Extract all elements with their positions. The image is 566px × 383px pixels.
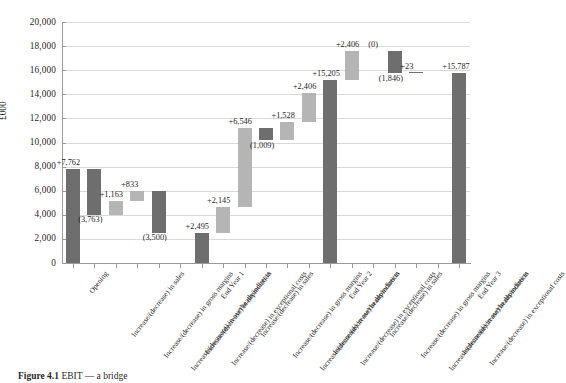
bar-value-label: +15,787 bbox=[442, 63, 470, 71]
y-tick-mark bbox=[62, 263, 66, 264]
x-tick-mark bbox=[287, 263, 288, 268]
x-tick-mark bbox=[266, 263, 267, 268]
waterfall-bar[interactable] bbox=[280, 122, 294, 140]
waterfall-bar[interactable] bbox=[452, 73, 466, 263]
bar-value-label: +1,163 bbox=[100, 191, 123, 199]
waterfall-bar[interactable] bbox=[259, 128, 273, 140]
y-tick-label: 8,000 bbox=[4, 162, 56, 171]
bar-value-label: +7,762 bbox=[57, 159, 80, 167]
waterfall-bar[interactable] bbox=[152, 191, 166, 233]
waterfall-bar[interactable] bbox=[345, 51, 359, 80]
x-tick-mark bbox=[159, 263, 160, 268]
y-tick-label: 10,000 bbox=[4, 138, 56, 147]
y-tick-label: 20,000 bbox=[4, 18, 56, 27]
x-tick-mark bbox=[438, 263, 439, 268]
x-tick-mark bbox=[223, 263, 224, 268]
x-tick-mark bbox=[137, 263, 138, 268]
bar-value-label: +2,406 bbox=[336, 41, 359, 49]
bar-value-label: +2,495 bbox=[186, 223, 209, 231]
y-tick-label: 12,000 bbox=[4, 114, 56, 123]
y-tick-label: 0 bbox=[4, 259, 56, 268]
y-tick-label: 2,000 bbox=[4, 234, 56, 243]
bar-value-label: (3,763) bbox=[78, 216, 102, 224]
x-tick-mark bbox=[245, 263, 246, 268]
plot-area: +7,762(3,763)+1,163+833(3,500)+2,495+2,1… bbox=[62, 22, 470, 263]
x-tick-mark bbox=[330, 263, 331, 268]
x-tick-mark bbox=[459, 263, 460, 268]
x-tick-mark bbox=[352, 263, 353, 268]
caption-text: EBIT — a bridge bbox=[61, 371, 127, 381]
bar-value-label: (1,009) bbox=[250, 142, 274, 150]
bar-value-label: (3,500) bbox=[143, 234, 167, 242]
x-tick-mark bbox=[73, 263, 74, 268]
y-tick-label: 14,000 bbox=[4, 90, 56, 99]
bar-value-label: +15,205 bbox=[312, 70, 340, 78]
x-tick-mark bbox=[116, 263, 117, 268]
x-tick-mark bbox=[416, 263, 417, 268]
x-tick-mark bbox=[309, 263, 310, 268]
waterfall-bar[interactable] bbox=[323, 80, 337, 263]
bar-value-label: (0) bbox=[368, 41, 378, 49]
waterfall-bar[interactable] bbox=[302, 93, 316, 122]
bar-value-label: +23 bbox=[400, 63, 413, 71]
waterfall-bar[interactable] bbox=[216, 207, 230, 233]
bar-value-label: +833 bbox=[121, 181, 138, 189]
waterfall-bar[interactable] bbox=[130, 191, 144, 201]
x-tick-mark bbox=[373, 263, 374, 268]
x-axis-category-label: Increase/(decrease) in sales bbox=[130, 270, 185, 338]
bar-value-label: +2,406 bbox=[293, 83, 316, 91]
waterfall-bar[interactable] bbox=[409, 72, 423, 74]
x-tick-mark bbox=[180, 263, 181, 268]
figure-caption: Figure 4.1 EBIT — a bridge bbox=[18, 371, 318, 383]
bar-value-label: +2,145 bbox=[207, 197, 230, 205]
bar-value-label: (1,846) bbox=[379, 75, 403, 83]
waterfall-bar[interactable] bbox=[195, 233, 209, 263]
x-axis-category-label: Opening bbox=[88, 270, 109, 294]
waterfall-bar[interactable] bbox=[109, 201, 123, 215]
y-tick-label: 18,000 bbox=[4, 42, 56, 51]
bar-value-label: +1,528 bbox=[271, 112, 294, 120]
y-tick-label: 4,000 bbox=[4, 210, 56, 219]
x-tick-mark bbox=[202, 263, 203, 268]
bar-value-label: +6,546 bbox=[229, 118, 252, 126]
y-tick-label: 16,000 bbox=[4, 66, 56, 75]
caption-number: Figure 4.1 bbox=[18, 371, 59, 381]
x-tick-mark bbox=[395, 263, 396, 268]
x-axis-category-label: Increase/(decrease) in exceptional costs bbox=[488, 270, 566, 367]
y-tick-label: 6,000 bbox=[4, 186, 56, 195]
x-tick-mark bbox=[94, 263, 95, 268]
